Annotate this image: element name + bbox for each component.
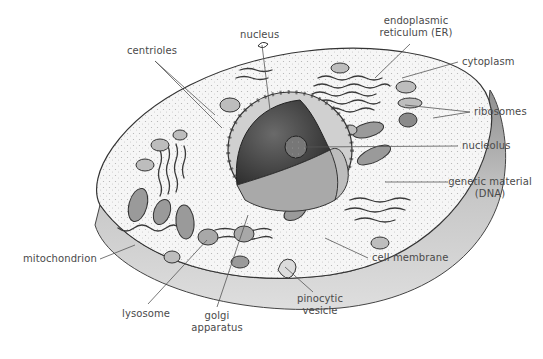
label-pinocytic-vesicle: pinocytic vesicle	[292, 293, 348, 317]
centrioles	[258, 42, 268, 47]
label-nucleus: nucleus	[240, 29, 279, 41]
label-dna-line1: genetic material	[448, 176, 532, 188]
label-nucleolus: nucleolus	[462, 140, 510, 152]
label-pinocytic-line2: vesicle	[292, 305, 348, 317]
label-cell-membrane: cell membrane	[372, 252, 448, 264]
label-centrioles: centrioles	[127, 45, 177, 57]
nucleus	[228, 92, 352, 211]
label-lysosome: lysosome	[122, 308, 170, 320]
label-dna-line2: (DNA)	[448, 188, 532, 200]
label-golgi-line2: apparatus	[188, 322, 246, 334]
cell-diagram: centrioles nucleus endoplasmic reticulum…	[0, 0, 543, 359]
label-golgi-apparatus: golgi apparatus	[188, 310, 246, 334]
label-cytoplasm: cytoplasm	[462, 56, 515, 68]
label-endoplasmic-reticulum: endoplasmic reticulum (ER)	[378, 15, 454, 39]
label-pinocytic-line1: pinocytic	[292, 293, 348, 305]
label-genetic-material: genetic material (DNA)	[448, 176, 532, 200]
label-er-line2: reticulum (ER)	[378, 27, 454, 39]
label-ribosomes: ribosomes	[474, 106, 527, 118]
label-mitochondrion: mitochondrion	[23, 253, 97, 265]
label-er-line1: endoplasmic	[378, 15, 454, 27]
label-golgi-line1: golgi	[188, 310, 246, 322]
